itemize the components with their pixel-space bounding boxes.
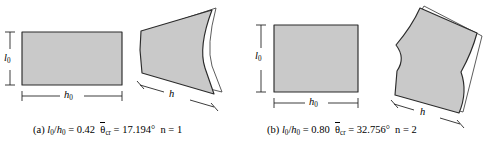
dimension-h0-b [274,98,358,108]
undeformed-rectangle-a [22,32,122,85]
deformed-shape-a [140,10,214,94]
panel-b-group [256,6,482,128]
panel-a-group [5,8,222,111]
figure-canvas [0,0,485,147]
deformed-shape-b [395,8,477,113]
dimension-l0-a [5,32,15,85]
dimension-l0-b [256,25,266,92]
figure-root: l0 h0 h l0 h0 h (a) l0/h0 = 0.42 θcr [0,0,485,147]
dimension-h0-a [22,91,122,101]
undeformed-rectangle-b [274,25,358,92]
